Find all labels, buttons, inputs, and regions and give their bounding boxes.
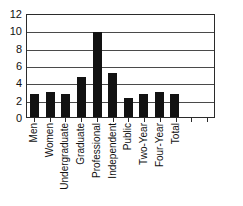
y-axis-tick-label: 10 [2,26,22,37]
bar[interactable] [139,94,148,117]
x-tick-mark [128,118,129,122]
x-label-slot [184,123,200,203]
bar[interactable] [170,94,179,117]
bar[interactable] [155,92,164,117]
bar[interactable] [61,94,70,117]
bar-slot [167,15,183,117]
bar-slot [105,15,121,117]
x-axis-label: Independent [108,123,118,179]
y-axis-tick-label: 8 [2,43,22,54]
x-tick-slot [199,118,215,122]
bar-slot [152,15,168,117]
x-label-slot: Independent [105,123,121,203]
x-axis-label: Two-Year [139,123,149,165]
x-tick-mark [160,118,161,122]
x-tick-slot [168,118,184,122]
x-tick-mark [34,118,35,122]
x-label-slot: Total [168,123,184,203]
bar[interactable] [77,77,86,117]
x-tick-mark [191,118,192,122]
y-axis-tick-label: 2 [2,95,22,106]
x-axis-label: Undergraduate [60,123,70,190]
x-tick-slot [184,118,200,122]
bars-container [27,15,214,117]
x-axis-label: Women [45,123,55,157]
y-axis-tick-labels: 024681012 [2,0,22,206]
bar-slot [27,15,43,117]
y-axis-tick-label: 6 [2,61,22,72]
x-tick-mark [50,118,51,122]
x-tick-slot [152,118,168,122]
x-tick-slot [121,118,137,122]
x-label-slot: Professional [89,123,105,203]
x-axis-label: Professional [92,123,102,178]
bar[interactable] [124,98,133,117]
x-tick-mark [65,118,66,122]
x-tick-slot [73,118,89,122]
x-label-slot: Graduate [73,123,89,203]
x-tick-slot [58,118,74,122]
x-tick-slot [89,118,105,122]
bar[interactable] [46,92,55,117]
bar-slot [136,15,152,117]
y-axis-tick-label: 4 [2,78,22,89]
bar-chart: 024681012 MenWomenUndergraduateGraduateP… [0,0,243,206]
x-axis-label: Graduate [76,123,86,165]
x-tick-slot [136,118,152,122]
x-tick-mark [97,118,98,122]
plot-area [26,14,215,118]
bar-slot [89,15,105,117]
bar[interactable] [93,32,102,117]
bar[interactable] [108,73,117,117]
x-tick-mark [81,118,82,122]
x-tick-mark [176,118,177,122]
x-axis-label: Total [171,123,181,144]
x-label-slot: Public [121,123,137,203]
y-axis-tick-label: 0 [2,113,22,124]
x-label-slot: Undergraduate [58,123,74,203]
x-label-slot: Four-Year [152,123,168,203]
x-axis-tick-marks [26,118,215,122]
bar-slot [74,15,90,117]
x-axis-category-labels: MenWomenUndergraduateGraduateProfessiona… [26,123,215,203]
x-label-slot: Men [26,123,42,203]
x-label-slot: Two-Year [136,123,152,203]
bar-slot [183,15,199,117]
bar[interactable] [30,94,39,117]
bar-slot [198,15,214,117]
x-label-slot [199,123,215,203]
x-axis-label: Men [29,123,39,142]
x-tick-slot [42,118,58,122]
bar-slot [43,15,59,117]
bar-slot [120,15,136,117]
x-tick-mark [113,118,114,122]
x-tick-slot [26,118,42,122]
x-tick-mark [207,118,208,122]
x-tick-slot [105,118,121,122]
x-axis-label: Four-Year [155,123,165,167]
bar-slot [58,15,74,117]
x-tick-mark [144,118,145,122]
x-axis-label: Public [123,123,133,150]
x-label-slot: Women [42,123,58,203]
y-axis-tick-label: 12 [2,9,22,20]
